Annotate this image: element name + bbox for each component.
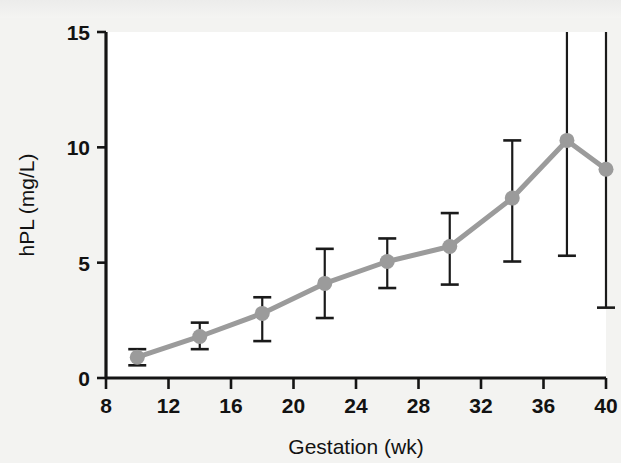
x-tick-label: 12	[157, 394, 180, 417]
data-point-marker	[192, 329, 207, 344]
x-axis-title: Gestation (wk)	[288, 435, 423, 458]
x-tick-label: 8	[100, 394, 112, 417]
data-point-marker	[599, 162, 614, 177]
data-point-marker	[559, 133, 574, 148]
x-tick-label: 32	[469, 394, 492, 417]
x-tick-label: 16	[219, 394, 242, 417]
y-tick-label: 5	[78, 252, 90, 275]
y-axis-title: hPL (mg/L)	[15, 153, 38, 256]
x-tick-label: 24	[344, 394, 368, 417]
line-chart: 05101581216202428323640Gestation (wk)hPL…	[0, 0, 621, 463]
figure-panel: 05101581216202428323640Gestation (wk)hPL…	[0, 0, 621, 463]
y-tick-label: 10	[67, 136, 90, 159]
x-tick-label: 40	[594, 394, 617, 417]
data-point-marker	[255, 306, 270, 321]
y-tick-label: 0	[78, 367, 90, 390]
data-point-marker	[442, 239, 457, 254]
data-point-marker	[505, 191, 520, 206]
x-tick-label: 28	[407, 394, 431, 417]
data-point-marker	[380, 254, 395, 269]
data-point-marker	[317, 276, 332, 291]
data-point-marker	[130, 350, 145, 365]
plot-area-background	[106, 32, 606, 378]
x-tick-label: 20	[282, 394, 305, 417]
x-tick-label: 36	[532, 394, 555, 417]
y-tick-label: 15	[67, 21, 91, 44]
